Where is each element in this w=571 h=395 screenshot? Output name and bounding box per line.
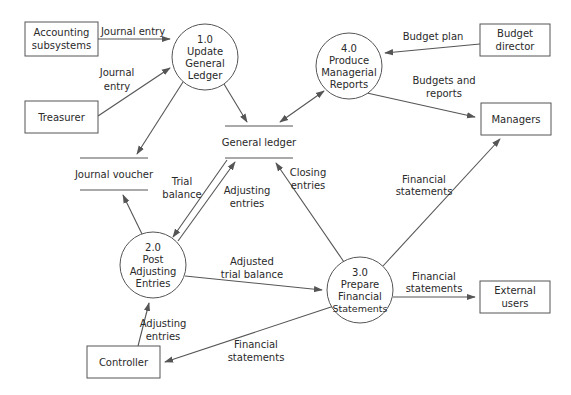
- svg-text:1.0: 1.0: [197, 34, 213, 45]
- svg-text:Adjusting: Adjusting: [130, 266, 177, 277]
- svg-text:Budget plan: Budget plan: [403, 31, 464, 42]
- process-2-post-adjusting-entries: 2.0 Post Adjusting Entries: [120, 232, 186, 298]
- svg-text:Financial: Financial: [338, 291, 382, 302]
- svg-text:Reports: Reports: [330, 79, 368, 90]
- svg-text:Accounting: Accounting: [34, 27, 90, 38]
- svg-text:Controller: Controller: [99, 357, 149, 368]
- flow-p1-to-journal-voucher: [137, 82, 183, 154]
- svg-text:2.0: 2.0: [145, 242, 161, 253]
- flow-label-financial-statements-controller: Financial statements: [228, 339, 285, 363]
- flow-label-closing-entries: Closing entries: [290, 167, 327, 191]
- process-1-update-general-ledger: 1.0 Update General Ledger: [172, 24, 238, 90]
- svg-text:Entries: Entries: [136, 278, 171, 289]
- data-flow-diagram: Accounting subsystems Treasurer Budget d…: [0, 0, 571, 395]
- svg-text:Adjusting: Adjusting: [140, 318, 187, 329]
- svg-text:4.0: 4.0: [341, 43, 357, 54]
- flow-label-budgets-and-reports: Budgets and reports: [412, 75, 475, 99]
- svg-text:trial balance: trial balance: [221, 269, 283, 280]
- flow-label-financial-statements-managers: Financial statements: [396, 174, 453, 197]
- svg-text:Post: Post: [143, 254, 164, 265]
- svg-text:Budget: Budget: [497, 28, 533, 39]
- svg-text:Prepare: Prepare: [341, 279, 379, 290]
- svg-text:Financial: Financial: [234, 339, 278, 350]
- entity-treasurer: Treasurer: [25, 101, 98, 133]
- flow-label-financial-statements-external: Financial statements: [406, 271, 463, 294]
- flow-budget-director-to-p4: [385, 44, 480, 53]
- flow-label-adjusting-entries-controller: Adjusting entries: [140, 318, 187, 342]
- svg-text:Journal: Journal: [99, 67, 135, 78]
- svg-text:Financial: Financial: [402, 174, 446, 185]
- svg-text:entries: entries: [146, 331, 181, 342]
- svg-text:subsystems: subsystems: [32, 40, 91, 51]
- svg-text:Budgets and: Budgets and: [412, 75, 475, 86]
- svg-text:General ledger: General ledger: [222, 137, 297, 148]
- flow-label-trial-balance: Trial balance: [162, 176, 201, 200]
- svg-text:Adjusting: Adjusting: [224, 185, 271, 196]
- svg-text:Trial: Trial: [171, 176, 192, 187]
- entity-external-users: External users: [480, 281, 550, 313]
- svg-text:Treasurer: Treasurer: [37, 112, 85, 123]
- entity-controller: Controller: [87, 346, 160, 378]
- svg-text:director: director: [496, 41, 536, 52]
- flow-general-ledger-p4-bidirectional: [280, 91, 324, 122]
- svg-text:3.0: 3.0: [352, 267, 368, 278]
- svg-text:users: users: [501, 298, 528, 309]
- svg-text:Managerial: Managerial: [321, 67, 377, 78]
- svg-text:Journal voucher: Journal voucher: [74, 169, 154, 180]
- process-4-produce-managerial-reports: 4.0 Produce Managerial Reports: [316, 33, 382, 99]
- entity-accounting-subsystems: Accounting subsystems: [25, 22, 98, 56]
- flow-p1-to-general-ledger: [224, 84, 247, 122]
- svg-text:Journal entry: Journal entry: [100, 26, 165, 37]
- svg-text:Closing: Closing: [290, 167, 327, 178]
- svg-text:Update: Update: [187, 46, 223, 57]
- svg-text:entry: entry: [104, 81, 131, 92]
- datastore-general-ledger: General ledger: [222, 126, 297, 158]
- svg-text:statements: statements: [406, 283, 463, 294]
- svg-text:statements: statements: [228, 352, 285, 363]
- flow-p2-to-journal-voucher: [123, 195, 142, 234]
- svg-text:reports: reports: [426, 88, 462, 99]
- svg-text:Ledger: Ledger: [188, 70, 223, 81]
- flow-label-journal-entry-treasurer: Journal entry: [99, 67, 135, 92]
- flow-label-adjusting-entries-p2: Adjusting entries: [224, 185, 271, 209]
- svg-text:balance: balance: [162, 189, 201, 200]
- datastore-journal-voucher: Journal voucher: [74, 158, 154, 190]
- svg-text:Managers: Managers: [491, 114, 540, 125]
- svg-text:Adjusted: Adjusted: [230, 256, 274, 267]
- flow-p2-to-general-ledger: [178, 162, 235, 241]
- process-3-prepare-financial-statements: 3.0 Prepare Financial Statements: [327, 257, 393, 323]
- flow-label-adjusted-trial-balance: Adjusted trial balance: [221, 256, 283, 280]
- svg-text:Produce: Produce: [329, 55, 369, 66]
- svg-text:Financial: Financial: [412, 271, 456, 282]
- svg-text:statements: statements: [396, 186, 453, 197]
- flow-label-journal-entry-accounting: Journal entry: [100, 26, 165, 37]
- svg-text:entries: entries: [291, 180, 326, 191]
- entity-managers: Managers: [481, 103, 551, 135]
- flow-label-budget-plan: Budget plan: [403, 31, 464, 42]
- svg-text:External: External: [494, 285, 536, 296]
- svg-text:General: General: [185, 58, 224, 69]
- svg-text:Statements: Statements: [333, 303, 388, 314]
- svg-text:entries: entries: [230, 198, 265, 209]
- flow-p3-to-managers: [383, 139, 500, 266]
- entity-budget-director: Budget director: [480, 24, 550, 56]
